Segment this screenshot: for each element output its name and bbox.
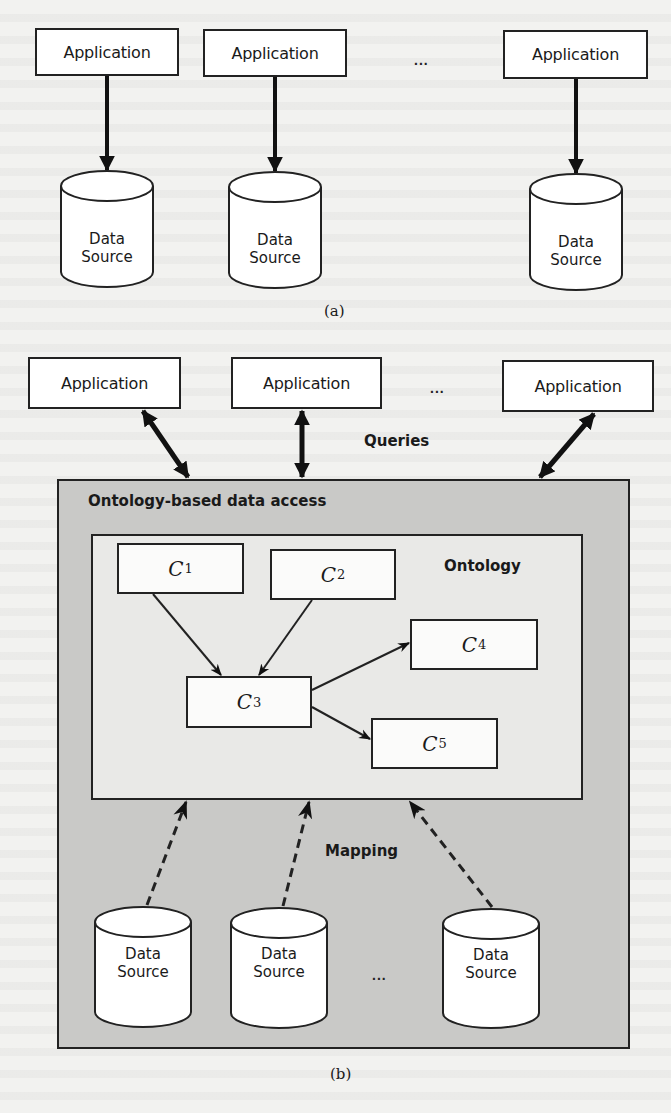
data-source-b2: Data Source (231, 945, 327, 981)
concept-c4: C4 (410, 619, 538, 670)
ellipsis-b-bottom: ... (372, 967, 387, 983)
application-box-b2: Application (231, 357, 382, 409)
concept-c5: C5 (371, 718, 498, 769)
ontology-label: Ontology (444, 557, 521, 575)
figure-a-connectors (0, 0, 671, 330)
concept-c1: C1 (117, 543, 244, 594)
database-cylinder-icon (530, 174, 622, 290)
data-source-a1: Data Source (61, 230, 153, 266)
mapping-label: Mapping (325, 842, 398, 860)
application-box-b3: Application (502, 360, 654, 412)
ellipsis-b-top: ... (430, 380, 445, 396)
application-box-b1: Application (28, 357, 181, 409)
data-source-a2: Data Source (229, 231, 321, 267)
obda-label: Ontology-based data access (88, 492, 326, 510)
concept-c2: C2 (270, 549, 396, 600)
database-cylinder-icon (61, 171, 153, 287)
caption-a: (a) (324, 302, 345, 320)
data-source-b1: Data Source (95, 945, 191, 981)
data-source-a3: Data Source (530, 233, 622, 269)
caption-b: (b) (330, 1065, 351, 1083)
database-cylinder-icon (229, 172, 321, 288)
concept-c3: C3 (186, 676, 312, 728)
data-source-b3: Data Source (443, 946, 539, 982)
queries-label: Queries (364, 432, 429, 450)
